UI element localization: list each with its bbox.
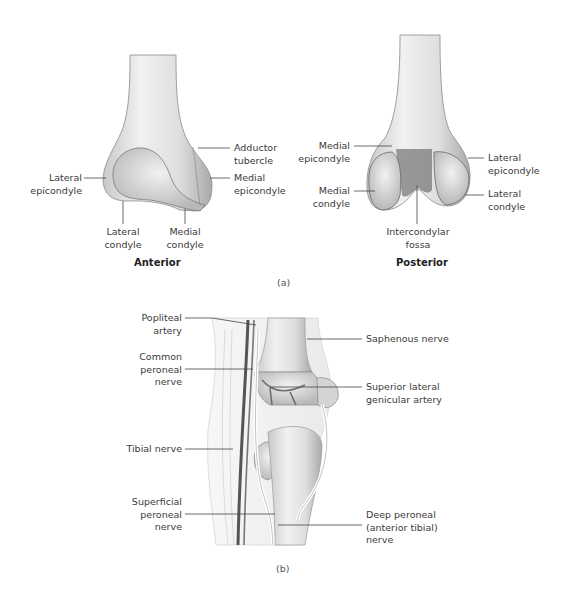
knee-illustration (208, 318, 339, 545)
label-lateral-epicondyle-posterior: Lateral epicondyle (488, 152, 540, 177)
label-medial-condyle-posterior: Medial condyle (286, 185, 350, 210)
label-lateral-condyle-anterior: Lateral condyle (100, 226, 146, 251)
label-lateral-epicondyle-anterior: Lateral epicondyle (20, 172, 82, 197)
view-title-anterior: Anterior (134, 257, 181, 268)
anterior-femur (103, 40, 212, 211)
label-superior-lateral-genicular-artery: Superior lateral genicular artery (366, 381, 442, 406)
label-medial-epicondyle-posterior: Medial epicondyle (286, 140, 350, 165)
label-superficial-peroneal-nerve: Superficial peroneal nerve (100, 496, 182, 534)
label-saphenous-nerve: Saphenous nerve (366, 333, 449, 346)
label-intercondylar-fossa: Intercondylar fossa (380, 226, 456, 251)
anatomy-illustration (0, 0, 567, 589)
view-title-posterior: Posterior (396, 257, 448, 268)
label-medial-condyle-anterior: Medial condyle (162, 226, 208, 251)
label-medial-epicondyle-anterior: Medial epicondyle (234, 172, 286, 197)
posterior-femur (367, 25, 470, 210)
label-popliteal-artery: Popliteal artery (100, 312, 182, 337)
label-deep-peroneal-nerve: Deep peroneal (anterior tibial) nerve (366, 509, 438, 547)
label-lateral-condyle-posterior: Lateral condyle (488, 188, 525, 213)
label-common-peroneal-nerve: Common peroneal nerve (100, 351, 182, 389)
label-adductor-tubercle: Adductor tubercle (234, 142, 277, 167)
label-tibial-nerve: Tibial nerve (100, 443, 182, 456)
panel-letter-a: (a) (277, 277, 290, 288)
panel-letter-b: (b) (276, 563, 289, 574)
